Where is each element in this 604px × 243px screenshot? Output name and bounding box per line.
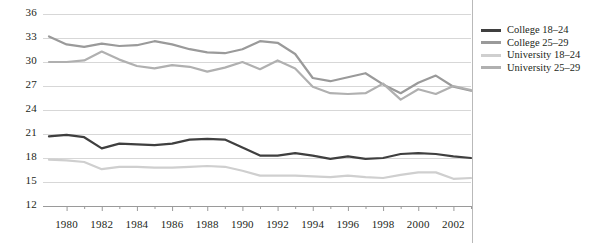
plot-svg (0, 0, 472, 243)
x-axis-tick-label: 2002 (436, 218, 470, 230)
y-axis-tick-label: 24 (11, 102, 37, 114)
legend-swatch-university-25-29 (481, 66, 501, 69)
line-chart: 363330272421181512 198019821984198619881… (0, 0, 604, 243)
legend-items: College 18–24College 25–29University 18–… (481, 24, 580, 74)
y-axis-tick-label: 15 (11, 174, 37, 186)
series-line-college-25-29 (49, 36, 471, 93)
legend: College 18–24College 25–29University 18–… (472, 0, 604, 243)
legend-item-label: College 25–29 (507, 37, 569, 49)
legend-item: University 25–29 (481, 62, 580, 75)
x-axis-tick-label: 1996 (331, 218, 365, 230)
x-axis-tick-label: 1990 (225, 218, 259, 230)
legend-item-label: College 18–24 (507, 24, 569, 36)
y-axis-tick-label: 21 (11, 126, 37, 138)
y-axis-tick-label: 33 (11, 30, 37, 42)
legend-swatch-college-25-29 (481, 41, 501, 44)
legend-item: University 18–24 (481, 49, 580, 62)
x-axis-tick-label: 1980 (50, 218, 84, 230)
plot-area: 363330272421181512 198019821984198619881… (0, 0, 472, 243)
x-axis-tick-label: 2000 (401, 218, 435, 230)
legend-swatch-college-18-24 (481, 29, 501, 32)
x-axis-tick-label: 1992 (261, 218, 295, 230)
y-axis-tick-label: 18 (11, 150, 37, 162)
legend-item-label: University 18–24 (507, 49, 580, 61)
legend-item: College 18–24 (481, 24, 580, 37)
x-axis-tick-label: 1982 (85, 218, 119, 230)
x-axis-tick-label: 1988 (190, 218, 224, 230)
data-series-group (49, 36, 471, 178)
x-axis-tick-label: 1998 (366, 218, 400, 230)
y-axis-tick-label: 27 (11, 78, 37, 90)
legend-swatch-university-18-24 (481, 54, 501, 57)
y-axis-tick-label: 30 (11, 54, 37, 66)
x-axis-tick-label: 1986 (155, 218, 189, 230)
y-axis-tick-label: 36 (11, 6, 37, 18)
x-axis-tick-label: 1994 (296, 218, 330, 230)
x-axis-tick-label: 1984 (120, 218, 154, 230)
series-line-university-18-24 (49, 160, 471, 179)
series-line-university-25-29 (49, 52, 471, 100)
legend-item-label: University 25–29 (507, 62, 580, 74)
legend-item: College 25–29 (481, 37, 580, 50)
y-axis-tick-label: 12 (11, 198, 37, 210)
series-line-college-18-24 (49, 135, 471, 159)
